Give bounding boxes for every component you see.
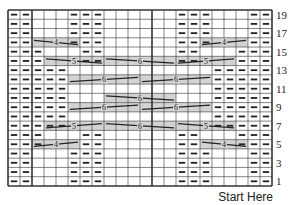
purl-symbol	[83, 153, 89, 155]
purl-symbol	[203, 42, 209, 44]
purl-symbol	[215, 106, 221, 108]
purl-symbol	[263, 42, 269, 44]
purl-symbol	[179, 51, 185, 53]
purl-symbol	[11, 42, 17, 44]
purl-symbol	[239, 143, 245, 145]
purl-symbol	[23, 42, 29, 44]
purl-symbol	[251, 42, 257, 44]
purl-symbol	[23, 79, 29, 81]
purl-symbol	[251, 106, 257, 108]
purl-symbol	[23, 116, 29, 118]
row-number-label: 1	[276, 175, 282, 187]
row-number-label: 5	[276, 138, 282, 150]
purl-symbol	[23, 60, 29, 62]
purl-symbol	[95, 162, 101, 164]
purl-symbol	[35, 60, 41, 62]
purl-symbol	[191, 32, 197, 34]
purl-symbol	[239, 60, 245, 62]
purl-symbol	[251, 69, 257, 71]
purl-symbol	[83, 162, 89, 164]
purl-symbol	[263, 153, 269, 155]
cable-count-label: 5	[204, 122, 208, 131]
purl-symbol	[263, 79, 269, 81]
purl-symbol	[11, 143, 17, 145]
row-number-label: 17	[276, 27, 288, 39]
purl-symbol	[71, 23, 77, 25]
purl-symbol	[263, 116, 269, 118]
purl-symbol	[11, 106, 17, 108]
purl-symbol	[11, 32, 17, 34]
purl-symbol	[251, 60, 257, 62]
purl-symbol	[191, 143, 197, 145]
purl-symbol	[215, 88, 221, 90]
purl-symbol	[35, 97, 41, 99]
purl-symbol	[23, 14, 29, 16]
purl-symbol	[239, 88, 245, 90]
purl-symbol	[251, 88, 257, 90]
purl-symbol	[203, 180, 209, 182]
cable-count-label: 6	[102, 103, 106, 112]
purl-symbol	[11, 23, 17, 25]
purl-symbol	[11, 125, 17, 127]
purl-symbol	[215, 79, 221, 81]
purl-symbol	[71, 162, 77, 164]
purl-symbol	[263, 143, 269, 145]
purl-symbol	[263, 60, 269, 62]
purl-symbol	[251, 143, 257, 145]
purl-symbol	[59, 69, 65, 71]
purl-symbol	[263, 32, 269, 34]
purl-symbol	[191, 180, 197, 182]
row-number-label: 19	[276, 9, 288, 21]
purl-symbol	[35, 143, 41, 145]
purl-symbol	[11, 51, 17, 53]
purl-symbol	[95, 14, 101, 16]
purl-symbol	[179, 171, 185, 173]
purl-symbol	[83, 180, 89, 182]
purl-symbol	[203, 23, 209, 25]
purl-symbol	[23, 97, 29, 99]
purl-symbol	[191, 171, 197, 173]
purl-symbol	[239, 106, 245, 108]
purl-symbol	[95, 42, 101, 44]
purl-symbol	[251, 171, 257, 173]
purl-symbol	[251, 153, 257, 155]
purl-symbol	[71, 42, 77, 44]
purl-symbol	[23, 134, 29, 136]
purl-symbol	[251, 23, 257, 25]
purl-symbol	[251, 32, 257, 34]
cable-count-label: 4	[54, 140, 58, 149]
purl-symbol	[179, 42, 185, 44]
purl-symbol	[47, 97, 53, 99]
purl-symbol	[23, 162, 29, 164]
row-number-label: 7	[276, 120, 282, 132]
purl-symbol	[191, 153, 197, 155]
purl-symbol	[251, 51, 257, 53]
purl-symbol	[11, 171, 17, 173]
purl-symbol	[11, 88, 17, 90]
purl-symbol	[191, 134, 197, 136]
purl-symbol	[47, 125, 53, 127]
purl-symbol	[191, 42, 197, 44]
purl-symbol	[227, 79, 233, 81]
purl-symbol	[23, 125, 29, 127]
purl-symbol	[23, 106, 29, 108]
purl-symbol	[11, 180, 17, 182]
purl-symbol	[71, 171, 77, 173]
purl-symbol	[251, 162, 257, 164]
purl-symbol	[239, 51, 245, 53]
purl-symbol	[23, 88, 29, 90]
purl-symbol	[95, 143, 101, 145]
purl-symbol	[35, 134, 41, 136]
purl-symbol	[227, 125, 233, 127]
purl-symbol	[263, 125, 269, 127]
purl-symbol	[95, 51, 101, 53]
purl-symbol	[23, 51, 29, 53]
purl-symbol	[263, 180, 269, 182]
purl-symbol	[239, 79, 245, 81]
purl-symbol	[215, 116, 221, 118]
purl-symbol	[215, 69, 221, 71]
purl-symbol	[251, 97, 257, 99]
purl-symbol	[23, 153, 29, 155]
purl-symbol	[263, 134, 269, 136]
purl-symbol	[263, 23, 269, 25]
